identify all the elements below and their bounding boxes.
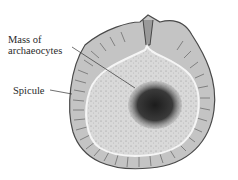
- label-line: archaeocytes: [8, 45, 62, 56]
- label-spicule: Spicule: [13, 85, 45, 96]
- leader-line-spicule: [50, 90, 72, 94]
- label-line: Mass of: [8, 34, 62, 45]
- label-mass-of-archaeocytes: Mass of archaeocytes: [8, 34, 62, 56]
- label-line: Spicule: [13, 85, 45, 96]
- archaeocyte-mass: [128, 81, 182, 129]
